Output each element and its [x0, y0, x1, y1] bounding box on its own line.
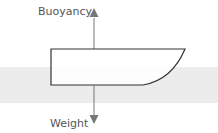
weight-arrowhead-icon	[90, 115, 99, 124]
buoyancy-diagram	[0, 0, 218, 133]
weight-label: Weight	[50, 118, 88, 129]
buoyancy-label: Buoyancy	[38, 6, 92, 17]
